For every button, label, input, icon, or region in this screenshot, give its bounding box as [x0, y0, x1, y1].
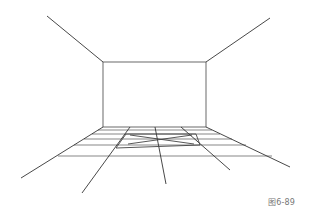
floor-diagonal-line: [82, 127, 130, 193]
floor-grid-diagonal-lines: [21, 127, 290, 193]
floor-diagonal-line: [181, 127, 230, 170]
floor-diagonal-line: [21, 127, 103, 178]
figure-caption: 图6-89: [268, 196, 295, 207]
floor-diagonal-line: [206, 127, 290, 167]
perspective-room-drawing: [0, 0, 314, 219]
ceiling-edge-line: [47, 16, 103, 62]
ceiling-edge-line: [206, 18, 270, 62]
ceiling-lines: [47, 16, 270, 62]
back-wall: [103, 62, 206, 127]
floor-diagonal-line: [155, 127, 166, 184]
